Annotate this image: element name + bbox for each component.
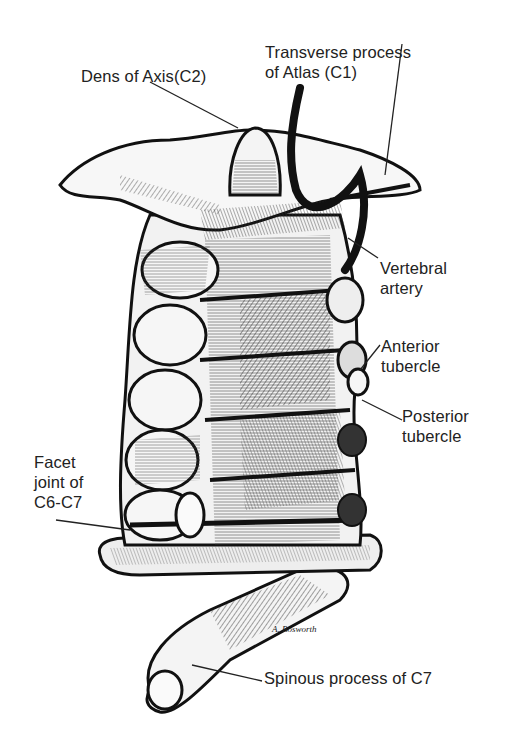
label-anterior-tubercle: Anterior tubercle [381, 336, 441, 376]
label-posterior-tubercle: Posterior tubercle [402, 406, 469, 446]
vertebral-column [120, 215, 368, 545]
label-spinous-process: Spinous process of C7 [264, 668, 432, 688]
label-facet-joint: Facet joint of C6-C7 [34, 452, 83, 512]
artist-signature: A. Bosworth [271, 624, 317, 634]
label-dens-of-axis: Dens of Axis(C2) [81, 66, 206, 86]
cervical-spine-diagram: A. Bosworth Dens of Axis(C2) Transverse … [0, 0, 510, 739]
label-vertebral-artery: Vertebral artery [380, 258, 447, 298]
label-transverse-process: Transverse process of Atlas (C1) [265, 42, 411, 82]
